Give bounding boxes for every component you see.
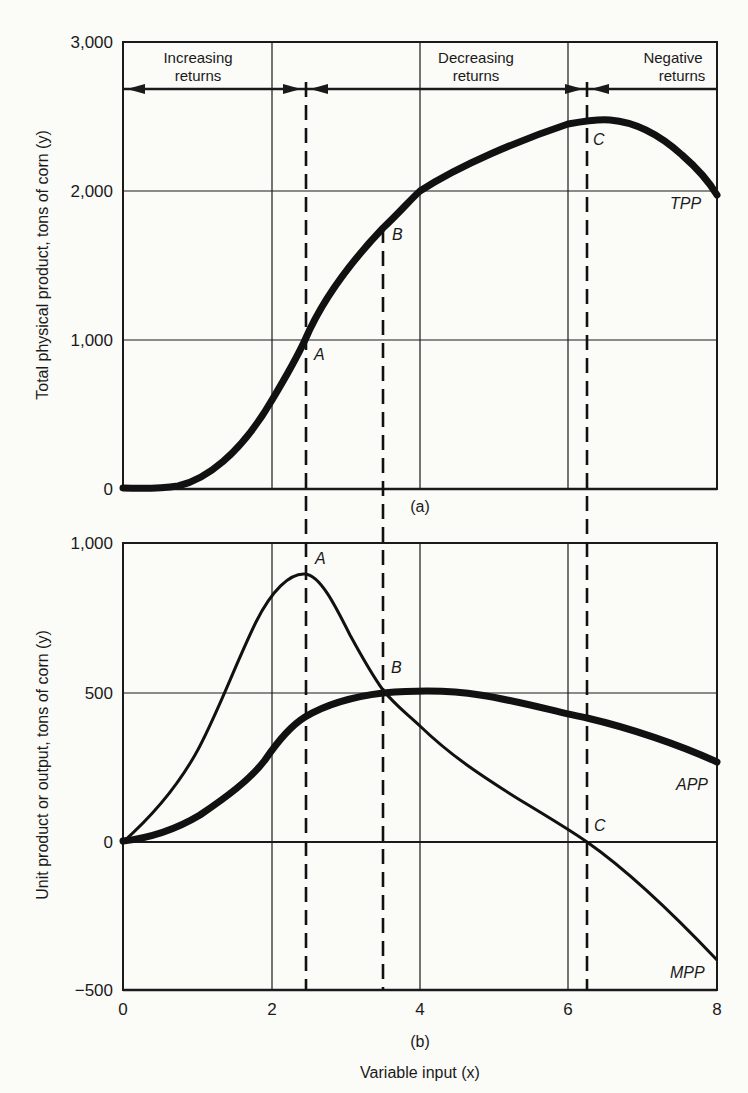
bottom-ytick-neg500: −500 — [75, 981, 113, 1000]
panel-a-grid — [123, 42, 717, 489]
panel-b-label: (b) — [410, 1033, 430, 1050]
top-ytick-0: 0 — [104, 480, 113, 499]
xtick-8: 8 — [712, 1000, 721, 1019]
bottom-ytick-1000: 1,000 — [70, 534, 113, 553]
top-ylabel: Total physical product, tons of corn (y) — [34, 130, 51, 399]
region-increasing-label-2: returns — [175, 67, 222, 84]
top-ytick-1000: 1,000 — [70, 331, 113, 350]
region-decreasing-label-2: returns — [453, 67, 500, 84]
region-negative-label-2: returns — [659, 67, 706, 84]
region-increasing-label: Increasing — [163, 49, 232, 66]
point-a-top: A — [313, 346, 325, 363]
app-label: APP — [675, 776, 708, 793]
xtick-0: 0 — [118, 1000, 127, 1019]
dashed-guides — [306, 82, 587, 990]
xtick-6: 6 — [563, 1000, 572, 1019]
point-b-top: B — [392, 226, 403, 243]
bottom-ytick-0: 0 — [104, 833, 113, 852]
top-ytick-3000: 3,000 — [70, 33, 113, 52]
point-c-top: C — [593, 131, 605, 148]
x-axis-label: Variable input (x) — [360, 1064, 480, 1081]
top-ytick-2000: 2,000 — [70, 182, 113, 201]
xtick-4: 4 — [415, 1000, 424, 1019]
panel-b: 1,000 500 0 −500 0 2 4 6 8 Unit product … — [34, 534, 722, 1081]
panel-a: Increasing returns Decreasing returns Ne… — [34, 33, 717, 515]
panel-b-grid — [123, 543, 717, 990]
region-negative-label: Negative — [643, 49, 702, 66]
point-a-bottom: A — [314, 550, 326, 567]
point-b-bottom: B — [391, 659, 402, 676]
region-decreasing-label: Decreasing — [438, 49, 514, 66]
panel-a-label: (a) — [410, 498, 430, 515]
mpp-label: MPP — [670, 964, 705, 981]
production-function-figure: Increasing returns Decreasing returns Ne… — [0, 0, 748, 1093]
bottom-ytick-500: 500 — [85, 684, 113, 703]
bottom-ylabel: Unit product or output, tons of corn (y) — [34, 630, 51, 899]
tpp-label: TPP — [670, 195, 701, 212]
point-c-bottom: C — [594, 817, 606, 834]
xtick-2: 2 — [267, 1000, 276, 1019]
